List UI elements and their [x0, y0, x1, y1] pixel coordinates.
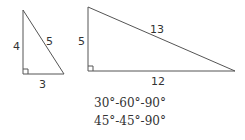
leg-vertical-label: 4	[13, 40, 20, 53]
right-angle-marker	[88, 66, 93, 71]
caption-30-60-90: 30°-60°-90°	[94, 96, 166, 110]
leg-horizontal-label: 3	[39, 78, 46, 91]
triangle-3-4-5-outline	[23, 10, 64, 74]
triangle-5-12-13-outline	[88, 7, 235, 71]
leg-vertical-label: 5	[78, 35, 85, 48]
caption-45-45-90: 45°-45°-90°	[94, 114, 166, 128]
hypotenuse-label: 5	[46, 35, 53, 48]
leg-horizontal-label: 12	[151, 75, 165, 88]
triangle-5-12-13: 5 13 12	[78, 7, 235, 88]
triangles-diagram: 4 5 3 5 13 12 30°-60°-90° 45°-45°-90°	[0, 0, 245, 140]
right-angle-marker	[23, 69, 28, 74]
triangle-3-4-5: 4 5 3	[13, 10, 64, 91]
hypotenuse-label: 13	[150, 23, 164, 36]
